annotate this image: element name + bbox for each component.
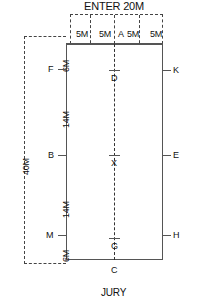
division-line-centre-top [114, 15, 115, 44]
marker-tick-e [163, 155, 171, 156]
enter-dimension-label: ENTER 20M [84, 2, 144, 11]
marker-label-f: F [48, 65, 53, 74]
marker-tick-x [109, 155, 120, 156]
top-segment-label-2: 5M [99, 30, 111, 39]
marker-label-h: H [173, 231, 179, 240]
left-segment-label-14m-upper: 14M [62, 111, 71, 128]
marker-label-k: K [173, 66, 179, 75]
overall-length-label: 40M [22, 158, 31, 175]
marker-label-a: A [118, 30, 124, 39]
top-segment-label-3: 5M [127, 30, 139, 39]
marker-tick-d [109, 70, 120, 71]
jury-label: JURY [101, 288, 126, 297]
marker-label-c: C [111, 266, 117, 275]
marker-label-d: D [111, 74, 117, 83]
top-segment-label-1: 5M [76, 30, 88, 39]
length-dimension-box [24, 36, 66, 264]
marker-label-e: E [173, 151, 179, 160]
left-segment-label-14m-lower: 14M [62, 201, 71, 218]
marker-tick-g [109, 238, 120, 239]
marker-tick-f [58, 69, 66, 70]
dressage-arena-diagram: ENTER 20M 40M 5M 5M A 5M 5M 6M 14M 14M 6… [0, 0, 201, 304]
marker-label-x: X [111, 159, 117, 168]
marker-label-b: B [48, 151, 54, 160]
marker-label-m: M [46, 231, 53, 240]
marker-tick-h [163, 235, 171, 236]
left-segment-label-6m-top: 6M [62, 60, 71, 72]
marker-label-g: G [111, 242, 118, 251]
marker-tick-m [58, 235, 66, 236]
top-segment-label-4: 5M [150, 30, 162, 39]
marker-tick-k [163, 70, 171, 71]
marker-tick-b [58, 155, 66, 156]
left-segment-label-6m-bottom: 6M [62, 250, 71, 262]
